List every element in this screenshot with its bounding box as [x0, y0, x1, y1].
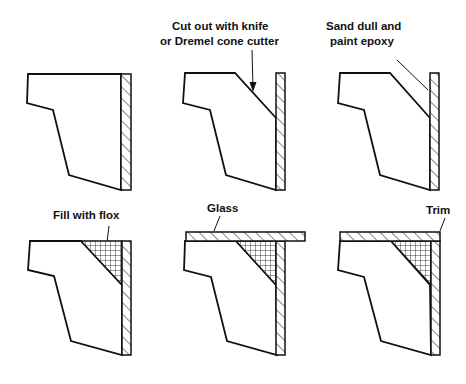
wall-hatch	[431, 241, 440, 355]
flox-fill-diagram: Cut out with knife or Dremel cone cutter…	[0, 0, 466, 384]
panel-step-1	[27, 74, 131, 190]
part-body-cut	[338, 73, 430, 190]
wall-hatch	[276, 241, 285, 355]
label-glass: Glass	[207, 202, 238, 214]
label-cut-out-line1: Cut out with knife	[172, 20, 268, 32]
label-sand-line1: Sand dull and	[326, 20, 401, 32]
wall-hatch	[430, 73, 439, 190]
part-body	[27, 74, 121, 190]
wall-hatch	[122, 241, 131, 355]
glass-layer-trimmed	[340, 232, 440, 241]
panel-step-5: Glass	[184, 202, 305, 355]
glass-layer	[186, 232, 305, 241]
leader-line	[214, 216, 220, 231]
wall-hatch	[121, 74, 131, 190]
label-fill-flox: Fill with flox	[53, 209, 120, 221]
label-cut-out-line2: or Dremel cone cutter	[160, 35, 279, 47]
leader-line	[440, 218, 445, 231]
panel-step-3: Sand dull and paint epoxy	[326, 20, 439, 190]
panel-step-2: Cut out with knife or Dremel cone cutter	[160, 20, 285, 190]
wall-hatch	[276, 73, 285, 190]
label-sand-line2: paint epoxy	[330, 35, 395, 47]
panel-step-4: Fill with flox	[28, 209, 131, 355]
panel-step-6: Trim	[338, 204, 450, 355]
label-trim: Trim	[426, 204, 450, 216]
part-body-cut	[183, 73, 276, 190]
leader-line	[107, 226, 109, 242]
